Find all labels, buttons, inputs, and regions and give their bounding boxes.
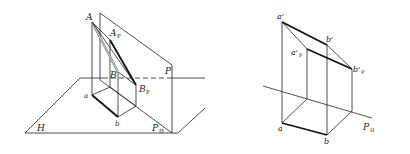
line-b-bp-foot [118,106,136,117]
line-ap-foot-bp-foot [110,87,136,106]
line-ab [92,95,118,117]
line-a-aP-foot [282,99,307,123]
label-BP: B [138,84,146,94]
orthographic-view [263,22,372,135]
label-PH-sub: H [159,128,164,134]
label-b-prime: b' [326,35,333,44]
label-b: b [115,120,120,128]
label-AP-sub: P [117,33,121,39]
line-a-ap-foot [92,87,110,95]
label-A: A [85,12,93,22]
label-PH: P [151,123,159,133]
p-h-line [263,86,372,118]
label-P: P [164,66,172,76]
line-a-prime-aP [282,22,307,49]
label-PH-right: P [362,122,370,132]
label-AP: A [109,28,117,38]
label-a: a [84,92,88,100]
line-a-prime-b-prime [282,22,327,45]
label-a-prime-P-sub: P [299,52,303,58]
label-BP-sub: P [146,89,150,95]
line-B-BP [118,72,136,85]
label-B: B [109,70,117,80]
line-aP-bP [307,49,352,69]
projection-diagram: A A P B B P P a b H P H [0,0,410,154]
label-a-plan: a [278,124,283,133]
label-a-prime-P: a' [291,48,298,57]
label-a-prime: a' [277,12,284,21]
line-b-prime-bP [327,45,352,69]
label-PH-right-sub: H [370,127,375,133]
pictorial-labels: A A P B B P P a b H P H [36,12,172,134]
line-b-bP-foot [327,111,352,135]
line-ab-plan [282,123,327,135]
label-H: H [36,123,45,133]
label-b-prime-P: b' [353,65,360,74]
label-b-prime-P-sub: P [361,69,365,75]
label-b-plan: b [324,137,329,146]
